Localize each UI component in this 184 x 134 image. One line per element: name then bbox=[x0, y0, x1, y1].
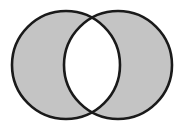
venn-diagram-svg bbox=[0, 0, 184, 134]
venn-diagram bbox=[0, 0, 184, 134]
